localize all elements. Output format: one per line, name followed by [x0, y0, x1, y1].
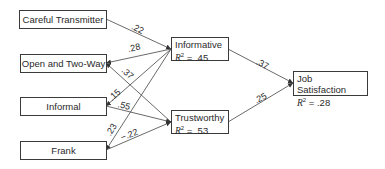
node-frank: Frank: [20, 141, 107, 160]
node-informative: Informative R2 = .45: [171, 37, 229, 61]
node-job-satisfaction: Job Satisfaction R2 = .28: [293, 71, 368, 96]
node-open-two-way: Open and Two-Way: [20, 54, 107, 73]
node-label: Frank: [51, 145, 75, 156]
node-trustworthy: Trustworthy R2 = .53: [171, 110, 229, 134]
node-label: Informative: [175, 39, 222, 50]
node-label: Open and Two-Way: [22, 58, 105, 69]
r-squared: R2 = .53: [175, 123, 225, 137]
node-label: Job Satisfaction: [297, 73, 346, 95]
r-squared: R2 = .45: [175, 50, 225, 64]
node-label: Trustworthy: [175, 112, 224, 123]
node-label: Careful Transmitter: [23, 14, 104, 25]
r-squared: R2 = .28: [297, 95, 364, 109]
node-careful-transmitter: Careful Transmitter: [19, 10, 107, 29]
node-informal: Informal: [20, 97, 107, 116]
node-label: Informal: [46, 101, 80, 112]
